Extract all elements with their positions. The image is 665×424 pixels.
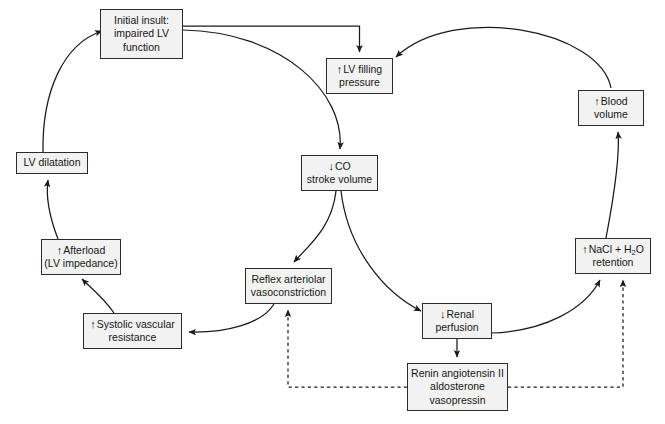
node-line: ↑Systolic vascular — [90, 318, 175, 332]
node-line: resistance — [109, 331, 157, 345]
edge-afterload-to-lv-dilatation — [47, 180, 58, 239]
node-line-text: Afterload — [63, 244, 105, 256]
node-line: aldosterone — [430, 380, 485, 394]
node-line: (LV impedance) — [44, 257, 117, 271]
edge-lv-dilatation-to-initial-insult — [43, 31, 102, 152]
node-lv-filling-pressure[interactable]: ↑LV filling pressure — [326, 58, 393, 94]
edge-renin-to-nacl — [508, 280, 623, 387]
node-afterload[interactable]: ↑Afterload (LV impedance) — [41, 239, 121, 275]
decrease-arrow-icon: ↓ — [328, 160, 335, 172]
increase-arrow-icon: ↑ — [337, 63, 344, 75]
node-nacl-retention[interactable]: ↑NaCl + H2O retention — [575, 238, 651, 274]
node-line: perfusion — [435, 321, 478, 335]
node-lv-dilatation[interactable]: LV dilatation — [16, 152, 88, 174]
increase-arrow-icon: ↑ — [57, 244, 64, 256]
node-line: Renin angiotensin II — [411, 367, 504, 381]
node-line: retention — [593, 256, 634, 270]
node-line-text: NaCl + H2O — [589, 243, 644, 255]
node-initial-insult[interactable]: Initial insult: impaired LV function — [100, 9, 183, 59]
node-line: ↓Renal — [440, 308, 474, 322]
node-line: ↑NaCl + H2O — [582, 243, 644, 257]
edge-renin-to-reflex-vasoconstriction — [288, 310, 407, 387]
edge-blood-volume-to-lv-filling — [396, 27, 611, 88]
node-line-text: LV filling — [343, 63, 382, 75]
node-line-text: Renal — [447, 308, 474, 320]
node-line-text: Blood — [601, 95, 628, 107]
node-systolic-vascular-resistance[interactable]: ↑Systolic vascular resistance — [83, 313, 182, 349]
flowchart-diagram: Initial insult: impaired LV function ↑LV… — [0, 0, 665, 424]
edge-systolic-resistance-to-afterload — [82, 279, 114, 313]
node-line: function — [123, 41, 160, 55]
edge-co-to-reflex-vasoconstriction — [294, 191, 336, 262]
node-blood-volume[interactable]: ↑Blood volume — [578, 90, 644, 126]
node-co-stroke-volume[interactable]: ↓CO stroke volume — [301, 155, 378, 191]
node-line: pressure — [339, 76, 380, 90]
node-line: ↓CO — [328, 160, 350, 174]
node-line: ↑LV filling — [337, 63, 382, 77]
edge-nacl-to-blood-volume — [606, 132, 618, 238]
decrease-arrow-icon: ↓ — [440, 308, 447, 320]
node-line: vasopressin — [429, 394, 485, 408]
node-renin-angiotensin[interactable]: Renin angiotensin II aldosterone vasopre… — [407, 363, 508, 411]
node-line-text: CO — [335, 160, 351, 172]
edge-co-to-renal-perfusion — [341, 191, 421, 311]
node-line: volume — [594, 108, 628, 122]
increase-arrow-icon: ↑ — [594, 95, 601, 107]
edge-renal-perfusion-to-nacl — [492, 280, 600, 333]
increase-arrow-icon: ↑ — [582, 243, 589, 255]
node-line: Initial insult: — [114, 14, 169, 28]
node-line: stroke volume — [307, 173, 372, 187]
node-reflex-vasoconstriction[interactable]: Reflex arteriolar vasoconstriction — [245, 268, 332, 304]
node-line: LV dilatation — [23, 156, 80, 170]
node-line: vasoconstriction — [251, 286, 326, 300]
node-line: ↑Afterload — [57, 244, 106, 258]
edge-initial-insult-to-lv-filling — [183, 26, 360, 52]
increase-arrow-icon: ↑ — [90, 318, 97, 330]
node-line-text: Systolic vascular — [97, 318, 175, 330]
edge-reflex-to-systolic-resistance — [189, 304, 274, 332]
node-line: Reflex arteriolar — [251, 273, 325, 287]
node-line: impaired LV — [114, 27, 169, 41]
node-line: ↑Blood — [594, 95, 627, 109]
node-renal-perfusion[interactable]: ↓Renal perfusion — [422, 303, 492, 339]
edge-initial-insult-to-co — [183, 30, 340, 149]
